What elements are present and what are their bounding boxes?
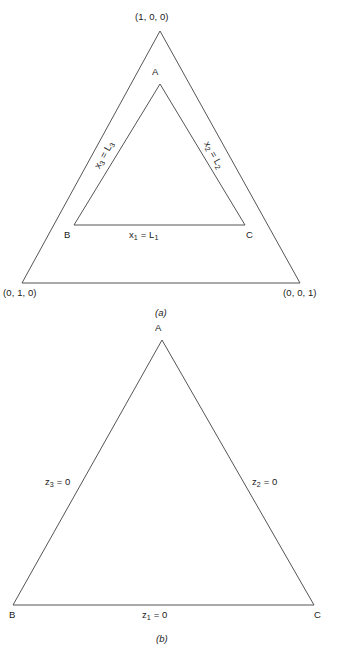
figure-b-caption: (b) (156, 633, 168, 644)
figure-a-caption: (a) (155, 307, 167, 318)
figure-b-graphic (0, 320, 340, 659)
triangle-b-bottom-sub: 1 (147, 613, 151, 622)
outer-apex-label: (1, 0, 0) (135, 12, 169, 22)
inner-bottom-edge-val-sub: 1 (154, 233, 158, 242)
inner-vertex-c: C (246, 230, 253, 240)
inner-vertex-a: A (152, 67, 158, 77)
figure-a-graphic (0, 0, 340, 330)
figure-a: (1, 0, 0) (0, 1, 0) (0, 0, 1) A B C x3 =… (0, 0, 340, 330)
inner-vertex-b: B (64, 230, 70, 240)
outer-triangle-shape (22, 31, 300, 283)
triangle-b-right-rest: = 0 (261, 476, 278, 487)
figure-b: A B C z3 = 0 z2 = 0 z1 = 0 (b) (0, 320, 340, 659)
vertex-b-a: A (155, 323, 161, 333)
outer-bottom-right-label: (0, 0, 1) (283, 288, 317, 298)
vertex-b-b: B (9, 610, 15, 620)
vertex-b-c: C (314, 610, 321, 620)
triangle-b-right-edge-label: z2 = 0 (252, 477, 277, 487)
inner-bottom-edge-eq: = L (138, 229, 155, 240)
triangle-b-left-edge-label: z3 = 0 (45, 477, 70, 487)
inner-bottom-edge-label: x1 = L1 (129, 230, 159, 240)
triangle-b-shape (13, 340, 314, 605)
inner-bottom-edge-var-sub: 1 (134, 233, 138, 242)
triangle-b-bottom-rest: = 0 (151, 609, 168, 620)
triangle-b-bottom-edge-label: z1 = 0 (142, 610, 167, 620)
outer-bottom-left-label: (0, 1, 0) (3, 288, 37, 298)
triangle-b-left-sub: 3 (50, 480, 54, 489)
triangle-b-right-sub: 2 (257, 480, 261, 489)
triangle-b-left-rest: = 0 (54, 476, 71, 487)
